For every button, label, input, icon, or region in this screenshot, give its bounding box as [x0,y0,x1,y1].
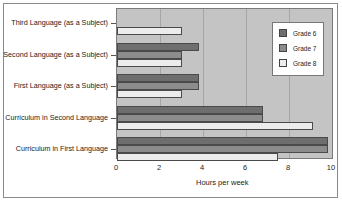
y-axis-tick [111,23,116,24]
legend-swatch [279,44,287,52]
x-tick-label: 6 [235,163,255,172]
bar-grade-6 [117,137,328,145]
gridline [203,9,204,158]
bar-grade-8 [117,90,182,98]
x-tick-label: 10 [321,163,341,172]
category-label: Second Language (as a Subject) [3,50,108,59]
legend-swatch [279,59,287,67]
category-label: Curriculum in First Language [16,144,108,153]
bar-grade-8 [117,27,182,35]
x-tick-label: 4 [192,163,212,172]
x-tick-label: 2 [149,163,169,172]
legend-swatch [279,29,287,37]
bar-grade-8 [117,59,182,67]
legend-item: Grade 6 [279,29,317,37]
bar-grade-6 [117,74,199,82]
bar-grade-7 [117,51,182,59]
x-tick-label: 0 [106,163,126,172]
category-label: Third Language (as a Subject) [11,18,108,27]
bar-grade-7 [117,145,328,153]
legend-item: Grade 8 [279,59,317,67]
gridline [246,9,247,158]
y-axis-tick [111,149,116,150]
legend-label: Grade 6 [293,30,317,37]
bar-grade-8 [117,153,278,161]
x-axis-title: Hours per week [196,178,249,187]
legend: Grade 6Grade 7Grade 8 [272,22,324,76]
y-axis-tick [111,55,116,56]
y-axis-tick [111,86,116,87]
y-axis-tick [111,118,116,119]
legend-label: Grade 8 [293,60,317,67]
bar-grade-6 [117,106,263,114]
legend-label: Grade 7 [293,45,317,52]
bar-grade-8 [117,122,313,130]
bar-grade-6 [117,43,199,51]
bar-grade-7 [117,114,263,122]
legend-item: Grade 7 [279,44,317,52]
bar-grade-7 [117,82,199,90]
x-tick-label: 8 [278,163,298,172]
category-label: First Language (as a Subject) [14,81,108,90]
category-label: Curriculum in Second Language [5,113,108,122]
